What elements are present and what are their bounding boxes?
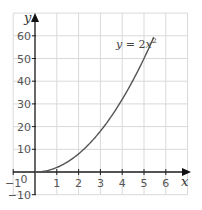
equation-label: y = 2x2	[115, 36, 157, 51]
grid-lines	[13, 13, 187, 195]
y-tick-label: 40	[17, 75, 31, 88]
x-tick-label: 6	[162, 177, 169, 190]
y-tick-label: 10	[17, 143, 31, 156]
x-tick-label: 5	[141, 177, 148, 190]
y-tick-label: 60	[17, 30, 31, 43]
x-tick-label: 4	[119, 177, 126, 190]
curve-y-2x-squared	[35, 37, 154, 172]
x-axis-title: x	[181, 174, 189, 189]
x-tick-label: 2	[75, 177, 82, 190]
y-axis-arrow-icon	[31, 13, 39, 22]
x-tick-label: 3	[97, 177, 104, 190]
chart: −10123456−10102030405060 x y y = 2x2	[0, 0, 202, 210]
y-tick-label: −10	[8, 189, 31, 202]
y-tick-label: 50	[17, 53, 31, 66]
x-tick-label: 0	[21, 173, 28, 186]
y-axis-title: y	[23, 10, 32, 25]
equation-exponent: 2	[152, 36, 157, 45]
equation-eq: = 2	[122, 38, 145, 51]
y-tick-label: 20	[17, 121, 31, 134]
x-tick-label: 1	[53, 177, 60, 190]
y-tick-label: 30	[17, 98, 31, 111]
